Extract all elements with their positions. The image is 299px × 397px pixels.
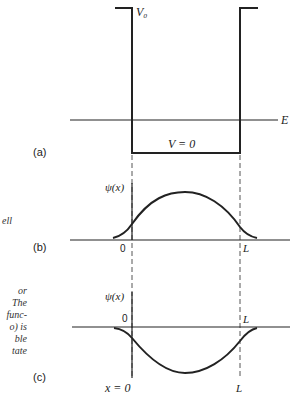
wavefunction-c-curve — [114, 328, 257, 373]
caption-fragment-c: or The func- o) is ble tate — [0, 285, 27, 357]
origin-c-label: 0 — [122, 313, 128, 324]
well-bottom-label: V = 0 — [168, 137, 195, 151]
caption-line: tate — [0, 345, 27, 357]
x0-label: x = 0 — [104, 381, 130, 395]
L-b-label: L — [242, 242, 249, 254]
caption-line: or — [0, 285, 27, 297]
energy-label: E — [280, 113, 289, 127]
caption-line: func- — [0, 309, 27, 321]
panel-b-label: (b) — [33, 241, 46, 253]
psi-b-label: ψ(x) — [105, 181, 124, 194]
psi-c-label: ψ(x) — [105, 290, 124, 303]
caption-line: ble — [0, 333, 27, 345]
origin-b-label: 0 — [120, 243, 126, 254]
caption-fragment-b: ell — [2, 215, 12, 227]
potential-well — [115, 8, 258, 153]
panel-c-label: (c) — [33, 371, 46, 383]
barrier-label: V₀ — [136, 5, 148, 19]
boundary-dashed-lines — [132, 155, 240, 378]
caption-line: ell — [2, 215, 12, 227]
caption-line: o) is — [0, 321, 27, 333]
finite-well-diagram: V₀ E V = 0 (a) ψ(x) (b) 0 L ψ(x) 0 L (c)… — [0, 0, 299, 397]
caption-line: The — [0, 297, 27, 309]
wavefunction-b-curve — [113, 192, 257, 238]
panel-a-label: (a) — [33, 146, 46, 158]
L-c-bottom-label: L — [235, 382, 242, 394]
L-c-top-label: L — [242, 313, 249, 325]
